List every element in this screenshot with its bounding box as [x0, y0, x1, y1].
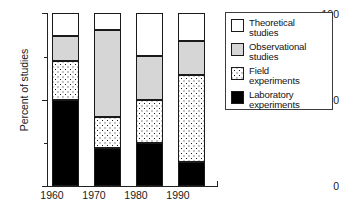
bar-1970 [94, 13, 121, 186]
dotted-swatch-icon [231, 67, 244, 80]
bar-1960 [52, 13, 79, 186]
bar-1980 [136, 13, 163, 186]
segment-laboratory-1960 [52, 100, 79, 187]
y-minor-tick-mark-25 [44, 143, 48, 144]
segment-observational-1990 [178, 41, 205, 76]
y-axis-top-cap [42, 13, 47, 14]
y-tick-label-0: 0 [313, 181, 339, 192]
x-tick-label-1990: 1990 [156, 190, 200, 201]
x-tick-label-1970: 1970 [72, 190, 116, 201]
segment-observational-1960 [52, 36, 79, 62]
segment-observational-1970 [94, 30, 121, 117]
black-swatch-icon [231, 91, 244, 104]
segment-field-1990 [178, 75, 205, 162]
y-axis-title: Percent of studies [18, 20, 30, 160]
legend-item-observational-studies: Observational studies [231, 42, 328, 63]
segment-theoretical-1980 [136, 13, 163, 56]
segment-field-1980 [136, 100, 163, 143]
legend-item-theoretical-studies: Theoretical studies [231, 18, 328, 39]
segment-field-1960 [52, 61, 79, 99]
segment-theoretical-1990 [178, 13, 205, 41]
plot-area [48, 13, 218, 186]
y-minor-tick-mark-75 [44, 57, 48, 58]
white-swatch-icon [231, 19, 244, 32]
segment-theoretical-1970 [94, 13, 121, 30]
chart-legend: Theoretical studies Observational studie… [225, 12, 333, 110]
segment-field-1970 [94, 117, 121, 148]
segment-laboratory-1970 [94, 148, 121, 186]
y-tick-mark-50 [42, 100, 47, 101]
legend-label-observational-line2: studies [249, 52, 306, 62]
bar-1990 [178, 13, 205, 186]
legend-label-theoretical-line2: studies [249, 28, 295, 38]
legend-label-field-line2: experiments [249, 76, 300, 86]
y-tick-mark-0 [42, 186, 47, 187]
segment-theoretical-1960 [52, 13, 79, 35]
legend-item-field-experiments: Field experiments [231, 66, 328, 87]
legend-label-laboratory-line2: experiments [249, 100, 300, 110]
segment-observational-1980 [136, 56, 163, 99]
x-tick-label-1960: 1960 [30, 190, 74, 201]
segment-laboratory-1990 [178, 162, 205, 186]
segment-laboratory-1980 [136, 143, 163, 186]
legend-item-laboratory-experiments: Laboratory experiments [231, 90, 328, 111]
stacked-bar-chart: Percent of studies 100 50 0 1960 1970 19… [0, 0, 339, 218]
x-tick-label-1980: 1980 [114, 190, 158, 201]
gray-swatch-icon [231, 43, 244, 56]
